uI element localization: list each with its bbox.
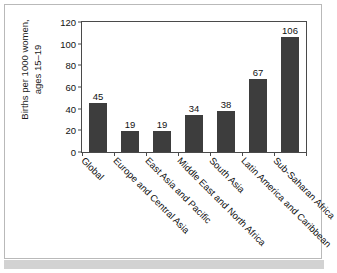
y-axis-tick: 80 xyxy=(56,60,82,71)
bar-value-label: 34 xyxy=(189,103,200,114)
bar-slot: 106 xyxy=(274,22,306,152)
y-axis-tick: 60 xyxy=(56,82,82,93)
y-axis-tick: 20 xyxy=(56,125,82,136)
bar-value-label: 106 xyxy=(282,25,298,36)
bar-value-label: 19 xyxy=(157,119,168,130)
bar[interactable]: 34 xyxy=(185,115,203,152)
bar-value-label: 38 xyxy=(221,99,232,110)
bar[interactable]: 19 xyxy=(153,131,171,152)
y-axis-title-line-2: ages 15–19 xyxy=(31,0,44,144)
bar[interactable]: 106 xyxy=(281,37,299,152)
y-axis-tick-label: 40 xyxy=(56,103,76,114)
y-axis-tick-label: 120 xyxy=(56,17,76,28)
bar-series: 451919343867106 xyxy=(82,22,306,152)
x-axis-category-labels: GlobalEurope and Central AsiaEast Asia a… xyxy=(81,155,307,260)
bar[interactable]: 19 xyxy=(121,131,139,152)
bar-value-label: 67 xyxy=(253,67,264,78)
y-axis-tick-label: 60 xyxy=(56,82,76,93)
y-axis-tick-label: 80 xyxy=(56,60,76,71)
y-axis-tick: 120 xyxy=(56,17,82,28)
bar-slot: 45 xyxy=(82,22,114,152)
y-axis-tick: 40 xyxy=(56,103,82,114)
bar-slot: 19 xyxy=(146,22,178,152)
figure-frame: Births per 1000 women, ages 15–19 020406… xyxy=(4,4,322,259)
bar-value-label: 19 xyxy=(125,119,136,130)
y-axis-tick-label: 100 xyxy=(56,38,76,49)
bar-slot: 38 xyxy=(210,22,242,152)
y-axis-title-line-1: Births per 1000 women, xyxy=(19,0,32,144)
bar[interactable]: 67 xyxy=(249,79,267,152)
y-axis-title: Births per 1000 women, ages 15–19 xyxy=(19,0,44,144)
bar[interactable]: 45 xyxy=(89,103,107,152)
y-axis-tick-label: 20 xyxy=(56,125,76,136)
bar[interactable]: 38 xyxy=(217,111,235,152)
y-axis-tick: 0 xyxy=(56,147,82,158)
plot-area: 020406080100120 451919343867106 xyxy=(81,21,307,153)
bar-value-label: 45 xyxy=(93,91,104,102)
bar-slot: 19 xyxy=(114,22,146,152)
x-axis-category-label: Global xyxy=(79,155,106,182)
y-axis-tick-label: 0 xyxy=(56,147,76,158)
footer-band xyxy=(4,260,324,269)
bar-slot: 34 xyxy=(178,22,210,152)
y-axis-tick: 100 xyxy=(56,38,82,49)
bar-slot: 67 xyxy=(242,22,274,152)
